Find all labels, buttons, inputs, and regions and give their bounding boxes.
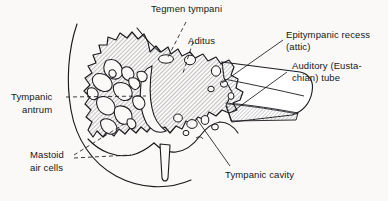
label-auditory-tube: Auditory (Eusta- (292, 60, 362, 72)
label-tympanic-antrum: Tympanic (11, 91, 52, 103)
label-tympanic-antrum-cont: antrum (22, 104, 52, 116)
label-tegmen-tympani: Tegmen tympani (151, 3, 222, 15)
basal-notch-mark (196, 137, 203, 139)
styloid-process (160, 144, 170, 181)
label-epitympanic-recess-attic: (attic) (286, 41, 310, 53)
label-aditus: Aditus (188, 35, 215, 47)
label-tympanic-cavity: Tympanic cavity (225, 169, 294, 181)
label-mastoid-air-cells: Mastoid (30, 149, 64, 161)
label-epitympanic-recess: Epitympanic recess (286, 29, 370, 41)
label-auditory-tube-cont: chian) tube (292, 72, 340, 84)
label-mastoid-air-cells-cont: air cells (30, 162, 63, 174)
